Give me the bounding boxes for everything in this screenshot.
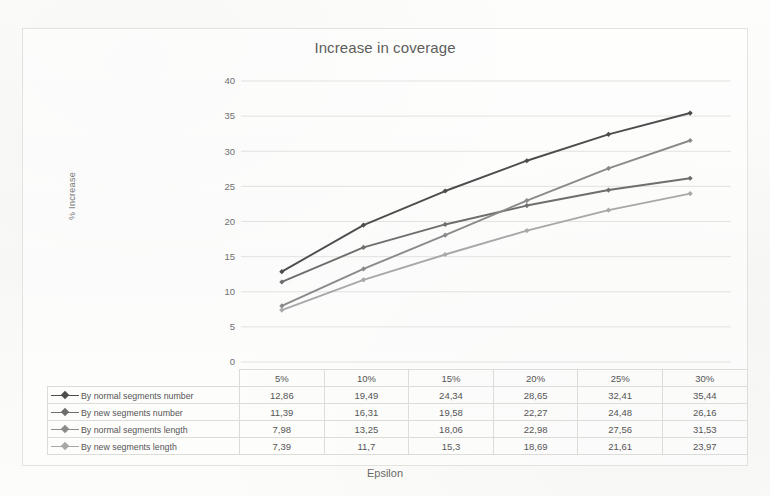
- y-axis-tick-label: 20: [224, 216, 235, 227]
- data-point-marker: [361, 245, 366, 250]
- chart-container: Increase in coverage % Increase 05101520…: [22, 28, 748, 466]
- data-point-marker: [524, 198, 529, 203]
- table-cell: 23,97: [662, 438, 747, 455]
- legend-label: By normal segments length: [81, 424, 188, 434]
- series-line-2: [282, 141, 690, 306]
- series-line-0: [282, 113, 690, 272]
- table-corner-cell: [48, 370, 240, 387]
- series-line-3: [282, 194, 690, 310]
- y-axis-tick-label: 35: [224, 110, 235, 121]
- table-cell: 24,34: [409, 387, 494, 404]
- table-cell: 28,65: [493, 387, 578, 404]
- table-cell: 15,3: [409, 438, 494, 455]
- table-cell: 31,53: [662, 421, 747, 438]
- table-row: By normal segments length7,9813,2518,062…: [48, 421, 748, 438]
- table-cell: 27,56: [578, 421, 663, 438]
- data-point-marker: [688, 191, 693, 196]
- data-point-marker: [606, 208, 611, 213]
- data-table: 5%10%15%20%25%30% By normal segments num…: [47, 369, 748, 455]
- table-row: By new segments number11,3916,3119,5822,…: [48, 404, 748, 421]
- table-col-header-5: 30%: [662, 370, 747, 387]
- table-header-row: 5%10%15%20%25%30%: [48, 370, 748, 387]
- data-point-marker: [688, 110, 693, 115]
- data-point-marker: [606, 187, 611, 192]
- table-cell: 18,06: [409, 421, 494, 438]
- legend-marker-icon: [51, 408, 79, 416]
- table-cell: 22,98: [493, 421, 578, 438]
- legend-entry-1[interactable]: By new segments number: [48, 404, 240, 421]
- table-cell: 21,61: [578, 438, 663, 455]
- legend-marker-icon: [51, 391, 79, 399]
- y-axis-tick-label: 25: [224, 181, 235, 192]
- table-col-header-1: 10%: [324, 370, 409, 387]
- data-point-marker: [688, 138, 693, 143]
- chart-title: Increase in coverage: [23, 39, 747, 56]
- data-point-marker: [524, 203, 529, 208]
- data-point-marker: [524, 158, 529, 163]
- data-point-marker: [688, 176, 693, 181]
- line-chart-svg: 0510152025303540: [219, 73, 741, 368]
- table-cell: 35,44: [662, 387, 747, 404]
- table-col-header-3: 20%: [493, 370, 578, 387]
- legend-marker-icon: [51, 442, 79, 450]
- y-axis-tick-label: 15: [224, 251, 235, 262]
- legend-label: By normal segments number: [81, 390, 193, 400]
- y-axis-title: % Increase: [67, 151, 77, 241]
- legend-label: By new segments number: [81, 407, 183, 417]
- table-cell: 22,27: [493, 404, 578, 421]
- table-cell: 11,39: [240, 404, 325, 421]
- table-cell: 11,7: [324, 438, 409, 455]
- data-point-marker: [279, 307, 284, 312]
- table-row: By normal segments number12,8619,4924,34…: [48, 387, 748, 404]
- data-point-marker: [443, 188, 448, 193]
- y-axis-tick-label: 0: [230, 356, 235, 367]
- legend-entry-0[interactable]: By normal segments number: [48, 387, 240, 404]
- table-cell: 32,41: [578, 387, 663, 404]
- table-cell: 18,69: [493, 438, 578, 455]
- legend-marker-icon: [51, 425, 79, 433]
- table-cell: 16,31: [324, 404, 409, 421]
- table-col-header-0: 5%: [240, 370, 325, 387]
- y-axis-tick-label: 30: [224, 146, 235, 157]
- data-point-marker: [361, 277, 366, 282]
- y-axis-tick-label: 40: [224, 75, 235, 86]
- table-cell: 7,39: [240, 438, 325, 455]
- table-cell: 13,25: [324, 421, 409, 438]
- table-cell: 7,98: [240, 421, 325, 438]
- data-point-marker: [279, 279, 284, 284]
- legend-entry-2[interactable]: By normal segments length: [48, 421, 240, 438]
- data-point-marker: [524, 228, 529, 233]
- table-cell: 19,58: [409, 404, 494, 421]
- data-point-marker: [443, 233, 448, 238]
- table-row: By new segments length7,3911,715,318,692…: [48, 438, 748, 455]
- data-point-marker: [443, 222, 448, 227]
- x-axis-title: Epsilon: [23, 467, 747, 479]
- legend-entry-3[interactable]: By new segments length: [48, 438, 240, 455]
- table-cell: 24,48: [578, 404, 663, 421]
- data-point-marker: [606, 132, 611, 137]
- table-cell: 26,16: [662, 404, 747, 421]
- table-col-header-2: 15%: [409, 370, 494, 387]
- data-point-marker: [606, 166, 611, 171]
- y-axis-tick-label: 5: [230, 321, 235, 332]
- table-cell: 12,86: [240, 387, 325, 404]
- series-line-1: [282, 178, 690, 282]
- plot-area: 0510152025303540: [219, 73, 741, 368]
- table-col-header-4: 25%: [578, 370, 663, 387]
- y-axis-tick-label: 10: [224, 286, 235, 297]
- legend-label: By new segments length: [81, 441, 177, 451]
- table-body: By normal segments number12,8619,4924,34…: [48, 387, 748, 455]
- table-cell: 19,49: [324, 387, 409, 404]
